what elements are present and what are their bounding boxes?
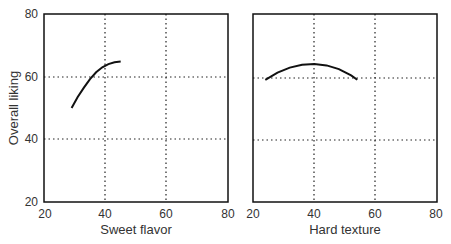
- right-x-tick-20: 20: [246, 207, 260, 221]
- y-tick-60: 60: [25, 70, 39, 84]
- left-panel: 80 60 40 20 20 40 60 80 Sweet flavor Ove…: [6, 7, 235, 237]
- left-x-tick-20: 20: [38, 207, 52, 221]
- right-panel: 20 40 60 80 Hard texture: [246, 14, 443, 237]
- right-plot-frame: [253, 14, 437, 202]
- left-x-axis-label: Sweet flavor: [100, 222, 172, 237]
- chart-figure: 80 60 40 20 20 40 60 80 Sweet flavor Ove…: [0, 0, 451, 244]
- right-x-tick-80: 80: [429, 207, 443, 221]
- left-x-tick-60: 60: [159, 207, 173, 221]
- y-axis-label: Overall liking: [6, 71, 21, 145]
- left-x-tick-40: 40: [98, 207, 112, 221]
- y-tick-40: 40: [25, 132, 39, 146]
- y-tick-20: 20: [25, 195, 39, 209]
- left-x-tick-80: 80: [221, 207, 235, 221]
- right-x-tick-40: 40: [307, 207, 321, 221]
- right-x-tick-60: 60: [368, 207, 382, 221]
- sweet-flavor-curve: [72, 62, 121, 108]
- y-tick-80: 80: [25, 7, 39, 21]
- right-x-axis-label: Hard texture: [309, 222, 381, 237]
